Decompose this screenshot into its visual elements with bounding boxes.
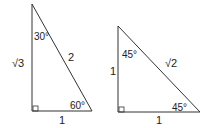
angle-label-top: 45° [122, 49, 137, 60]
triangles-diagram: 30° 60° √3 2 1 45° 45° 1 √2 1 [0, 0, 216, 128]
angle-label-bottom-right: 60° [70, 100, 85, 111]
side-label-vertical: √3 [12, 57, 24, 69]
triangle-45-45-90: 45° 45° 1 √2 1 [110, 26, 200, 126]
right-angle-marker [33, 106, 38, 111]
side-label-hypotenuse: 2 [68, 51, 74, 63]
side-label-hypotenuse: √2 [165, 57, 177, 69]
side-label-base: 1 [59, 114, 65, 126]
side-label-vertical: 1 [110, 65, 116, 77]
right-angle-marker [119, 107, 124, 112]
triangle-30-60-90: 30° 60° √3 2 1 [12, 4, 92, 126]
angle-label-top: 30° [34, 31, 49, 42]
side-label-base: 1 [156, 114, 162, 126]
angle-label-bottom-right: 45° [172, 102, 187, 113]
